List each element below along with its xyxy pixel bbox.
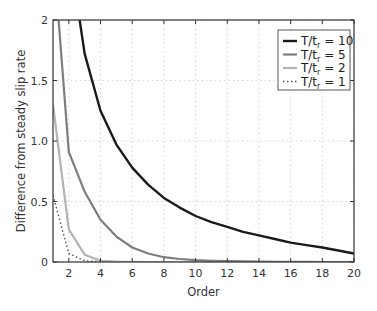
x-tick-label: 14 xyxy=(252,267,266,280)
legend: T/tr = 10T/tr = 5T/tr = 2T/tr = 1 xyxy=(278,30,353,91)
x-tick-label: 6 xyxy=(129,267,136,280)
y-tick-label: 0.5 xyxy=(31,196,49,209)
y-tick-label: 2 xyxy=(41,14,48,27)
x-tick-label: 20 xyxy=(347,267,361,280)
x-axis-label: Order xyxy=(187,285,220,299)
chart: 246810121416182000.51.01.52 Order Differ… xyxy=(0,0,377,311)
x-tick-label: 8 xyxy=(160,267,167,280)
x-tick-label: 18 xyxy=(315,267,329,280)
x-tick-label: 2 xyxy=(65,267,72,280)
series-line xyxy=(53,195,354,262)
y-tick-label: 1.0 xyxy=(31,135,49,148)
x-tick-label: 12 xyxy=(220,267,234,280)
series-line xyxy=(53,105,354,262)
x-tick-label: 16 xyxy=(284,267,298,280)
x-tick-label: 4 xyxy=(97,267,104,280)
y-tick-label: 0 xyxy=(41,256,48,269)
y-tick-label: 1.5 xyxy=(31,75,49,88)
x-tick-label: 10 xyxy=(189,267,203,280)
y-axis-label: Difference from steady slip rate xyxy=(14,50,28,232)
legend-entry: T/tr = 1 xyxy=(300,75,346,91)
